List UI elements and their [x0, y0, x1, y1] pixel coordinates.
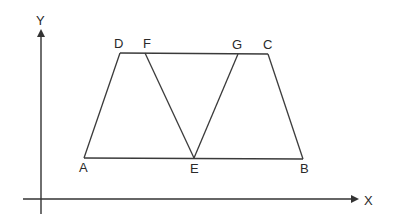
point-label-f: F: [143, 36, 151, 51]
point-label-g: G: [232, 37, 242, 52]
point-label-b: B: [300, 161, 309, 176]
x-axis-label: X: [364, 193, 373, 208]
segment-cb: [268, 54, 303, 159]
segment-dc: [120, 53, 268, 54]
point-label-c: C: [263, 37, 272, 52]
segment-ad: [84, 53, 120, 158]
segment-ge: [194, 54, 238, 158]
point-labels: A B C D E F G: [79, 36, 309, 176]
point-label-e: E: [190, 161, 199, 176]
segment-fe: [145, 53, 194, 158]
point-label-a: A: [79, 160, 88, 175]
inner-segments: [145, 53, 238, 158]
coordinate-axes: X Y: [23, 13, 373, 214]
point-label-d: D: [114, 36, 123, 51]
trapezoid-abcd: [84, 53, 303, 159]
y-axis-label: Y: [36, 13, 45, 28]
geometry-diagram: X Y A B C D E F G: [0, 0, 393, 224]
